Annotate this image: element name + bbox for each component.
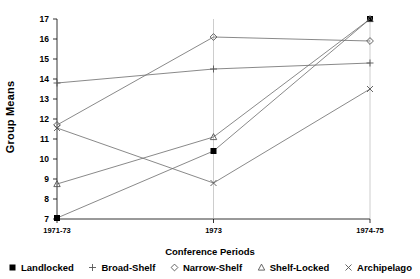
legend-label: Landlocked bbox=[21, 262, 74, 273]
line-chart: Group Means Conference Periods 171615141… bbox=[0, 0, 420, 279]
legend-label: Broad-Shelf bbox=[101, 262, 155, 273]
legend-item-archipelago[interactable]: Archipelago bbox=[344, 262, 412, 273]
chart-legend: LandlockedBroad-ShelfNarrow-ShelfShelf-L… bbox=[0, 258, 420, 276]
plot-area bbox=[0, 0, 420, 279]
legend-item-shelf-locked[interactable]: Shelf-Locked bbox=[257, 262, 330, 273]
y-tick-label: 12 bbox=[27, 114, 49, 124]
tick-marks bbox=[53, 19, 370, 223]
cross-icon bbox=[344, 263, 353, 272]
y-tick-label: 14 bbox=[27, 74, 49, 84]
triangle-icon bbox=[257, 263, 266, 272]
legend-label: Shelf-Locked bbox=[270, 262, 330, 273]
legend-label: Narrow-Shelf bbox=[183, 262, 242, 273]
data-point-marker bbox=[210, 66, 217, 73]
x-tick-label: 1971-73 bbox=[22, 226, 92, 235]
x-axis-title: Conference Periods bbox=[0, 246, 420, 257]
plus-icon bbox=[88, 263, 97, 272]
data-point-marker bbox=[171, 264, 178, 271]
y-tick-label: 16 bbox=[27, 34, 49, 44]
filled-square-icon bbox=[8, 263, 17, 272]
y-tick-label: 10 bbox=[27, 154, 49, 164]
x-tick-label: 1973 bbox=[179, 226, 249, 235]
y-tick-label: 8 bbox=[27, 194, 49, 204]
y-tick-label: 7 bbox=[27, 214, 49, 224]
data-point-marker bbox=[10, 264, 16, 270]
data-point-marker bbox=[54, 80, 61, 87]
legend-item-broad-shelf[interactable]: Broad-Shelf bbox=[88, 262, 155, 273]
plot-svg bbox=[0, 0, 420, 279]
y-tick-label: 9 bbox=[27, 174, 49, 184]
legend-label: Archipelago bbox=[357, 262, 412, 273]
data-point-marker bbox=[211, 148, 217, 154]
diamond-icon bbox=[170, 263, 179, 272]
y-tick-label: 13 bbox=[27, 94, 49, 104]
y-tick-label: 11 bbox=[27, 134, 49, 144]
data-point-marker bbox=[258, 264, 264, 270]
data-point-marker bbox=[367, 60, 374, 67]
y-axis-title: Group Means bbox=[4, 52, 16, 182]
legend-item-landlocked[interactable]: Landlocked bbox=[8, 262, 74, 273]
y-tick-label: 15 bbox=[27, 54, 49, 64]
data-point-marker bbox=[54, 215, 60, 221]
data-point-marker bbox=[89, 264, 96, 271]
legend-item-narrow-shelf[interactable]: Narrow-Shelf bbox=[170, 262, 242, 273]
y-tick-label: 17 bbox=[27, 14, 49, 24]
x-tick-label: 1974-75 bbox=[335, 226, 405, 235]
data-point-marker bbox=[346, 264, 352, 270]
